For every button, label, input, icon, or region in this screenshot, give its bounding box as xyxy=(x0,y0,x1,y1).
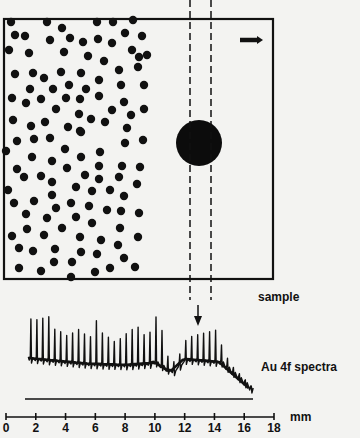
particle-dot xyxy=(37,172,45,180)
particle-dot xyxy=(29,69,37,77)
axis-tick-label: 14 xyxy=(208,421,221,435)
particle-dot xyxy=(65,81,73,89)
particle-dot xyxy=(11,70,19,78)
particle-dot xyxy=(15,264,23,272)
particle-dot xyxy=(30,197,38,205)
particle-dot xyxy=(30,135,38,143)
particle-dot xyxy=(76,233,84,241)
particle-dot xyxy=(88,219,96,227)
particle-dot xyxy=(21,32,29,40)
particle-dot xyxy=(117,81,125,89)
sample-label: sample xyxy=(258,290,299,304)
particle-dot xyxy=(68,258,76,266)
particle-dot xyxy=(143,51,151,59)
particle-dot xyxy=(48,178,56,186)
axis-tick-label: 12 xyxy=(178,421,191,435)
particle-dot xyxy=(140,81,148,89)
particle-dot xyxy=(40,74,48,82)
particle-dot xyxy=(127,111,135,119)
particle-dot xyxy=(95,92,103,100)
particle-dot xyxy=(43,18,51,26)
particle-dot xyxy=(120,192,128,200)
large-particle xyxy=(176,120,222,166)
particle-dot xyxy=(46,36,54,44)
particle-dot xyxy=(8,94,16,102)
particle-dot xyxy=(8,232,16,240)
particle-dot xyxy=(13,137,21,145)
particle-dot xyxy=(28,153,36,161)
axis-tick-label: 0 xyxy=(3,421,10,435)
particle-dot xyxy=(5,46,13,54)
particle-dot xyxy=(96,148,104,156)
particle-dot xyxy=(64,123,72,131)
particle-dot xyxy=(95,76,103,84)
mm-axis xyxy=(6,413,274,420)
particle-dot xyxy=(75,110,83,118)
particle-dot xyxy=(2,147,10,155)
particle-dot xyxy=(9,116,17,124)
particle-dot xyxy=(95,162,103,170)
particle-dot xyxy=(49,85,57,93)
particle-dot xyxy=(48,191,56,199)
particle-dot xyxy=(131,263,139,271)
particle-dot xyxy=(37,95,45,103)
particle-dot xyxy=(88,187,96,195)
particle-dot xyxy=(25,49,33,57)
particle-dot xyxy=(4,186,12,194)
particle-dot xyxy=(77,69,85,77)
particle-dot xyxy=(52,204,60,212)
particle-dot xyxy=(103,206,111,214)
particle-dot xyxy=(62,94,70,102)
particle-dot xyxy=(120,98,128,106)
particle-dot xyxy=(23,225,31,233)
au4f-spectra-trace xyxy=(28,317,253,393)
axis-tick-label: 8 xyxy=(122,421,129,435)
particle-dot xyxy=(85,202,93,210)
particle-dot xyxy=(15,244,23,252)
axis-tick-label: 4 xyxy=(62,421,69,435)
particle-dot xyxy=(108,39,116,47)
axis-tick-label: 6 xyxy=(92,421,99,435)
particle-dot xyxy=(27,122,35,130)
particle-dot xyxy=(101,118,109,126)
particle-dot xyxy=(67,199,75,207)
particle-dot xyxy=(77,248,85,256)
particle-dot xyxy=(108,106,116,114)
particle-dot xyxy=(81,171,89,179)
particle-dot xyxy=(87,115,95,123)
particle-dot xyxy=(121,139,129,147)
particle-dot xyxy=(134,233,142,241)
particle-dot xyxy=(26,85,34,93)
unit-label: mm xyxy=(290,410,311,424)
particle-dot xyxy=(61,145,69,153)
particle-dot xyxy=(118,162,126,170)
particle-dot xyxy=(72,213,80,221)
axis-tick-label: 16 xyxy=(238,421,251,435)
particle-dot xyxy=(95,175,103,183)
particle-dot xyxy=(128,46,136,54)
particle-dot xyxy=(7,18,15,26)
particle-dot xyxy=(106,186,114,194)
particle-dot xyxy=(123,124,131,132)
particle-dot xyxy=(94,35,102,43)
particle-dot xyxy=(135,53,143,61)
particle-dot xyxy=(129,16,137,24)
particle-dot xyxy=(100,57,108,65)
particle-dot xyxy=(58,24,66,32)
particle-dot xyxy=(50,258,58,266)
particle-dot xyxy=(72,183,80,191)
particle-dot xyxy=(91,268,99,276)
particle-dot xyxy=(115,173,123,181)
particle-dot xyxy=(115,66,123,74)
particle-dot xyxy=(13,165,21,173)
particle-dot xyxy=(138,32,146,40)
particle-dot xyxy=(97,236,105,244)
particle-dot xyxy=(29,247,37,255)
particle-dot xyxy=(10,199,18,207)
particle-dot xyxy=(120,254,128,262)
particle-dot xyxy=(40,231,48,239)
axis-tick-label: 2 xyxy=(32,421,39,435)
particle-dot xyxy=(46,134,54,142)
particle-dot xyxy=(76,95,84,103)
particle-dot xyxy=(109,18,117,26)
